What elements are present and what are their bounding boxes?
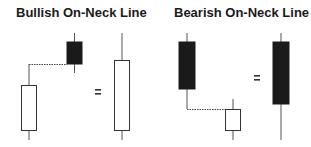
bearish-second-candle-white [226,99,241,140]
candlestick-diagram [0,0,311,147]
bearish-panel [179,33,289,140]
bullish-first-candle-white [22,64,37,140]
bullish-combined-candle-white [115,33,130,140]
bearish-first-candle-black [179,33,195,109]
bullish-panel [22,33,130,140]
bearish-combined-candle-black [273,33,289,140]
bullish-second-candle-black [67,33,82,73]
bearish-equals-sign [254,75,260,81]
bullish-equals-sign [95,89,101,95]
